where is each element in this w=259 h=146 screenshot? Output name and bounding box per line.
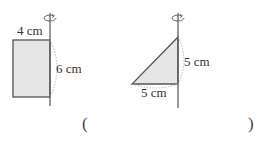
triangle-base-label: 5 cm [141, 85, 167, 100]
rectangle-height-label: 6 cm [56, 61, 82, 76]
rectangle-figure: 4 cm 6 cm [13, 13, 82, 106]
answer-blank[interactable] [92, 114, 242, 134]
triangle-height-label: 5 cm [184, 54, 210, 69]
answer-open-paren: ( [82, 114, 88, 134]
rectangle-shape [13, 40, 50, 97]
answer-close-paren: ) [248, 114, 254, 134]
triangle-figure: 5 cm 5 cm [132, 13, 210, 108]
rectangle-width-label: 4 cm [17, 23, 43, 38]
triangle-shape [132, 37, 178, 84]
